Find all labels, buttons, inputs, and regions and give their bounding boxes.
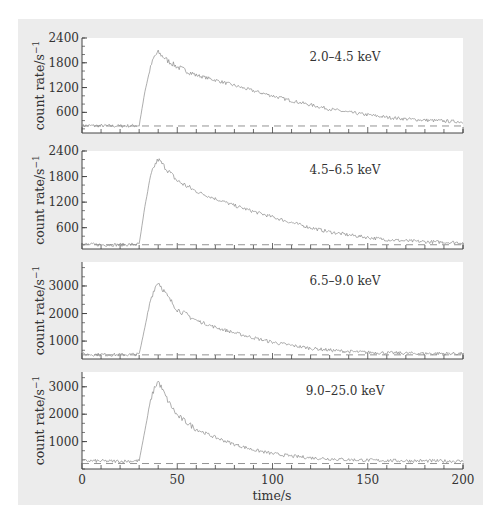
y-tick-label: 2000 [48, 407, 79, 421]
y-tick-label: 2400 [48, 144, 79, 158]
x-tick-label: 0 [78, 473, 86, 487]
energy-band-label: 6.5–9.0 keV [309, 274, 380, 288]
y-tick-label: 1800 [48, 170, 79, 184]
y-tick-label: 600 [56, 105, 79, 119]
energy-band-label: 4.5–6.5 keV [309, 163, 380, 177]
y-axis-label: count rate/s−1 [31, 376, 47, 465]
cropped-caption-fragment [492, 426, 501, 442]
y-tick-label: 1800 [48, 56, 79, 70]
panel-1: 6001200180024002.0–4.5 keVcount rate/s−1 [31, 31, 463, 133]
energy-band-label: 9.0–25.0 keV [306, 384, 385, 398]
light-curve-figure: 6001200180024002.0–4.5 keVcount rate/s−1… [0, 0, 501, 519]
plot-area [82, 372, 463, 469]
panel-2: 6001200180024004.5–6.5 keVcount rate/s−1 [31, 144, 463, 249]
y-tick-label: 1000 [48, 334, 79, 348]
y-tick-label: 600 [56, 221, 79, 235]
x-tick-label: 150 [356, 473, 379, 487]
y-axis-label: count rate/s−1 [31, 41, 47, 130]
plot-area [82, 262, 463, 359]
y-tick-label: 1200 [48, 195, 79, 209]
y-tick-label: 2000 [48, 307, 79, 321]
energy-band-label: 2.0–4.5 keV [309, 50, 380, 64]
y-tick-label: 2400 [48, 31, 79, 45]
plot-area [82, 151, 463, 249]
x-tick-label: 50 [170, 473, 185, 487]
y-tick-label: 3000 [48, 279, 79, 293]
x-tick-label: 200 [452, 473, 475, 487]
x-axis-label: time/s [253, 488, 292, 503]
y-tick-label: 1000 [48, 435, 79, 449]
panel-3: 1000200030006.5–9.0 keVcount rate/s−1 [31, 262, 463, 359]
y-axis-label: count rate/s−1 [31, 266, 47, 355]
x-tick-label: 100 [261, 473, 284, 487]
panel-4: 1000200030009.0–25.0 keVcount rate/s−1 [31, 372, 463, 469]
y-axis-label: count rate/s−1 [31, 155, 47, 244]
y-tick-label: 1200 [48, 81, 79, 95]
y-tick-label: 3000 [48, 380, 79, 394]
